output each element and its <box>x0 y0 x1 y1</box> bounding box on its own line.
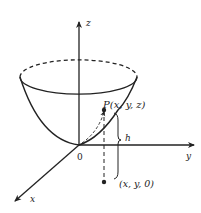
origin-label: 0 <box>77 152 83 162</box>
paraboloid-left-side <box>20 77 79 145</box>
height-brace <box>114 113 121 179</box>
y-axis-label: y <box>185 151 192 161</box>
z-axis-label: z <box>85 18 91 28</box>
paraboloid-diagram: z y x 0 P(x, y, z) (x, y, 0) h <box>0 0 201 213</box>
point-projection <box>102 180 106 184</box>
x-axis-label: x <box>30 194 35 204</box>
point-P-label: P(x, y, z) <box>102 99 146 110</box>
x-axis <box>15 145 79 201</box>
height-label: h <box>125 133 131 143</box>
projection-label: (x, y, 0) <box>119 178 154 189</box>
